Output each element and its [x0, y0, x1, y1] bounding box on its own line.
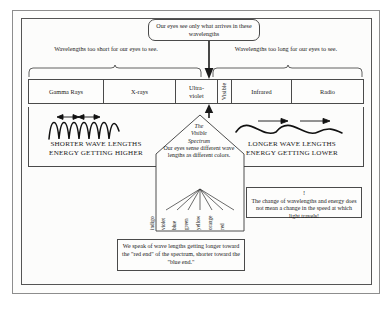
right-brace: [212, 66, 364, 78]
pentagon-heading-line3: Spectrum: [188, 138, 210, 144]
band-label-gamma-rays: Gamma Rays: [49, 88, 83, 95]
short-wave-caption-line2: ENERGY GETTING HIGHER: [49, 149, 143, 157]
short-wavelength-wave-icon: [45, 113, 131, 141]
left-caption-text: Wavelengths too short for our eyes to se…: [54, 45, 158, 52]
color-label-indigo: indigo: [149, 216, 155, 230]
color-label-group: indigo violet blue green yellow orange r…: [152, 196, 236, 230]
band-label-radio: Radio: [320, 88, 335, 95]
band-label-uv-line2: violet: [189, 92, 203, 99]
pentagon-heading-line2: Visible: [191, 130, 207, 136]
short-wave-caption-line1: SHORTER WAVE LENGTHS: [50, 140, 141, 148]
band-label-x-rays: X-rays: [131, 88, 148, 95]
band-segment-visible[interactable]: Visible: [218, 80, 232, 103]
long-wave-caption-line1: LONGER WAVE LENGTHS: [248, 140, 336, 148]
color-label-blue: blue: [171, 221, 177, 230]
color-label-violet: violet: [160, 218, 166, 230]
band-segment-gamma-rays[interactable]: Gamma Rays: [29, 80, 104, 103]
light-speed-note-text: The change of wavelengths and energy doe…: [251, 198, 356, 219]
band-segment-infrared[interactable]: Infrared: [232, 80, 292, 103]
band-label-visible: Visible: [221, 83, 228, 100]
pentagon-heading-line1: The: [195, 123, 204, 129]
band-label-infrared: Infrared: [251, 88, 271, 95]
band-segment-radio[interactable]: Radio: [292, 80, 363, 103]
band-label-ultraviolet: Ultra- violet: [189, 84, 204, 98]
red-end-blue-end-note-text: We speak of wave lengths getting longer …: [121, 243, 241, 267]
right-caption: Wavelengths too long for our eyes to see…: [226, 46, 346, 53]
left-caption: Wavelengths too short for our eyes to se…: [46, 46, 166, 53]
spectrum-band: Gamma Rays X-rays Ultra- violet Visible …: [28, 79, 364, 104]
red-end-blue-end-note-box: We speak of wave lengths getting longer …: [117, 239, 245, 271]
color-label-orange: orange: [207, 216, 213, 230]
short-wavelength-caption: SHORTER WAVE LENGTHS ENERGY GETTING HIGH…: [28, 140, 164, 157]
long-wavelength-wave-icon: [234, 117, 346, 141]
left-brace: [28, 66, 203, 78]
band-segment-ultraviolet[interactable]: Ultra- violet: [176, 80, 218, 103]
light-speed-note-box: ! The change of wavelengths and energy d…: [246, 187, 362, 218]
diagram-canvas: Our eyes see only what arrives in these …: [0, 0, 391, 313]
long-wave-caption-line2: ENERGY GETTING LOWER: [246, 149, 338, 157]
exclamation-icon: !: [250, 190, 358, 197]
top-callout-text: Our eyes see only what arrives in these …: [151, 22, 257, 38]
pentagon-body-text: Our eyes sense different wave lengths as…: [164, 145, 235, 158]
visible-spectrum-text: The Visible Spectrum Our eyes sense diff…: [160, 123, 238, 160]
right-caption-text: Wavelengths too long for our eyes to see…: [235, 45, 337, 52]
band-label-uv-line1: Ultra-: [189, 84, 204, 91]
color-label-red: red: [219, 223, 225, 230]
color-label-yellow: yellow: [195, 216, 201, 230]
color-label-green: green: [183, 218, 189, 230]
band-segment-x-rays[interactable]: X-rays: [104, 80, 176, 103]
top-callout-box: Our eyes see only what arrives in these …: [148, 19, 260, 41]
